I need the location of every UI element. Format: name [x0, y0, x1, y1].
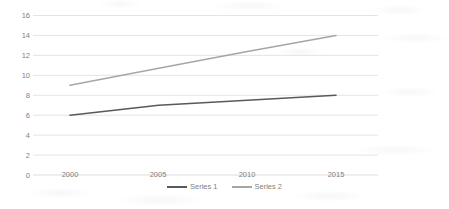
x-axis-tick-label: 2000: [50, 171, 90, 179]
y-axis-tick-label: 2: [8, 152, 30, 160]
x-axis-tick-label: 2015: [316, 171, 356, 179]
y-axis-tick-label: 10: [8, 72, 30, 80]
line-chart: 16 14 12 10 8 6 4 2 0 2000 2005 2010 201…: [0, 0, 449, 209]
legend-swatch-series-1: [167, 186, 187, 188]
chart-legend: Series 1 Series 2: [0, 183, 449, 191]
y-axis-tick-label: 14: [8, 32, 30, 40]
series-line-2[interactable]: [70, 35, 336, 85]
y-axis-tick-label: 4: [8, 132, 30, 140]
legend-label-series-1: Series 1: [190, 183, 218, 191]
x-axis-tick-label: 2010: [227, 171, 267, 179]
chart-screenshot: 16 14 12 10 8 6 4 2 0 2000 2005 2010 201…: [0, 0, 449, 209]
x-axis-tick-label: 2005: [138, 171, 178, 179]
legend-item-series-2[interactable]: Series 2: [232, 183, 283, 191]
series-line-1[interactable]: [70, 95, 336, 115]
y-axis-tick-label: 0: [8, 172, 30, 180]
y-axis-tick-label: 12: [8, 52, 30, 60]
y-axis-tick-label: 8: [8, 92, 30, 100]
y-axis-tick-label: 16: [8, 12, 30, 20]
y-axis-tick-label: 6: [8, 112, 30, 120]
legend-label-series-2: Series 2: [255, 183, 283, 191]
legend-swatch-series-2: [232, 186, 252, 188]
legend-item-series-1[interactable]: Series 1: [167, 183, 218, 191]
